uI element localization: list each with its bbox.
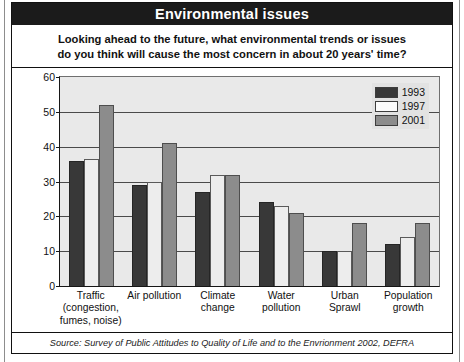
chart-footer: Source: Survey of Public Attitudes to Qu… — [12, 332, 452, 353]
bar-group — [60, 77, 123, 286]
chart-plot-area: 0102030405060 199319972001 Traffic(conge… — [12, 68, 452, 332]
x-axis-label-line: Water — [250, 290, 314, 302]
legend-item: 1993 — [375, 86, 425, 98]
bar-group — [123, 77, 186, 286]
y-tick-mark — [56, 286, 60, 287]
legend-item: 2001 — [375, 114, 425, 126]
legend-label: 2001 — [402, 114, 425, 126]
x-axis-label: Traffic(congestion,fumes, noise) — [59, 290, 123, 327]
x-axis-label-line: pollution — [250, 302, 314, 314]
chart-question-line-2: do you think will cause the most concern… — [28, 47, 436, 62]
legend-swatch — [375, 115, 398, 126]
y-tick-mark — [56, 251, 60, 252]
legend-label: 1993 — [402, 86, 425, 98]
x-axis-label-line: Urban — [313, 290, 377, 302]
y-tick-label: 60 — [43, 71, 55, 83]
y-tick-mark — [56, 112, 60, 113]
bar — [274, 206, 289, 286]
x-axis-label-line: Air pollution — [123, 290, 187, 302]
bar — [225, 175, 240, 286]
x-axis-label-line: (congestion, — [59, 302, 123, 314]
x-axis-label-line: growth — [377, 302, 441, 314]
legend-label: 1997 — [402, 100, 425, 112]
bar — [400, 237, 415, 286]
x-axis-label-line: Sprawl — [313, 302, 377, 314]
chart-question: Looking ahead to the future, what enviro… — [12, 25, 452, 68]
x-axis-label: Air pollution — [123, 290, 187, 327]
chart-legend: 199319972001 — [372, 83, 429, 129]
x-axis-label-line: fumes, noise) — [59, 315, 123, 327]
bar — [147, 182, 162, 287]
y-tick-label: 20 — [43, 210, 55, 222]
chart-header: Environmental issues — [12, 3, 452, 25]
x-axis-label: Climatechange — [186, 290, 250, 327]
y-tick-label: 40 — [43, 141, 55, 153]
y-tick-label: 30 — [43, 176, 55, 188]
y-tick-mark — [56, 147, 60, 148]
bar — [352, 223, 367, 286]
bar — [162, 143, 177, 286]
x-axis-label-line: Population — [377, 290, 441, 302]
y-tick-label: 10 — [43, 245, 55, 257]
bar-group — [313, 77, 376, 286]
x-axis-label-line: Traffic — [59, 290, 123, 302]
x-axis-labels: Traffic(congestion,fumes, noise)Air poll… — [59, 290, 440, 327]
legend-item: 1997 — [375, 100, 425, 112]
bar — [322, 251, 337, 286]
y-tick-mark — [56, 77, 60, 78]
bar-group — [250, 77, 313, 286]
bar — [259, 202, 274, 286]
x-axis-label: UrbanSprawl — [313, 290, 377, 327]
bar — [195, 192, 210, 286]
bar-group — [186, 77, 249, 286]
y-tick-mark — [56, 216, 60, 217]
bar — [69, 161, 84, 286]
x-axis-label: Waterpollution — [250, 290, 314, 327]
bar — [385, 244, 400, 286]
bar — [415, 223, 430, 286]
screenshot-root: Environmental issues Looking ahead to th… — [0, 0, 464, 362]
x-axis-label-line: change — [186, 302, 250, 314]
chart-question-line-1: Looking ahead to the future, what enviro… — [28, 32, 436, 47]
bar — [132, 185, 147, 286]
bar — [337, 251, 352, 286]
bar — [210, 175, 225, 286]
bar — [289, 213, 304, 286]
page-title: Environmental issues — [155, 6, 309, 22]
bar — [84, 159, 99, 286]
legend-swatch — [375, 101, 398, 112]
chart-card: Environmental issues Looking ahead to th… — [11, 2, 453, 354]
page-right-rule — [459, 0, 460, 362]
bar — [99, 105, 114, 286]
x-axis-label: Populationgrowth — [377, 290, 441, 327]
page-left-rule — [4, 0, 5, 362]
y-tick-mark — [56, 182, 60, 183]
legend-swatch — [375, 87, 398, 98]
x-axis-label-line: Climate — [186, 290, 250, 302]
plot-canvas: 0102030405060 199319972001 — [59, 76, 440, 287]
source-note: Source: Survey of Public Attitudes to Qu… — [50, 338, 414, 348]
y-tick-label: 50 — [43, 106, 55, 118]
y-tick-label: 0 — [49, 280, 55, 292]
